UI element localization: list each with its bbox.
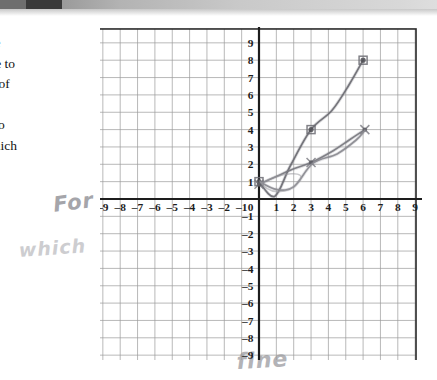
- svg-text:0: 0: [248, 201, 254, 213]
- svg-text:8: 8: [248, 54, 254, 66]
- svg-text:5: 5: [248, 106, 254, 118]
- body-paragraph: the ure to es of e d to which: [0, 33, 76, 156]
- svg-text:–9: –9: [241, 349, 254, 360]
- axis-labels: xy: [263, 27, 422, 213]
- svg-text:–7: –7: [131, 201, 144, 213]
- svg-text:–4: –4: [183, 201, 196, 213]
- graph-canvas: –9–8–7–6–5–4–3–2–1123456789987654321–1–2…: [100, 27, 422, 360]
- svg-text:3: 3: [308, 201, 314, 213]
- scan-artifact-fade: [0, 9, 437, 16]
- svg-text:–2: –2: [241, 228, 254, 240]
- svg-text:7: 7: [248, 72, 254, 84]
- svg-text:5: 5: [343, 201, 349, 213]
- svg-text:7: 7: [378, 201, 384, 213]
- svg-text:–2: –2: [218, 201, 231, 213]
- handwritten-note-for: For: [52, 188, 95, 217]
- svg-text:–3: –3: [200, 201, 213, 213]
- svg-text:–8: –8: [241, 332, 254, 344]
- svg-text:–9: –9: [100, 201, 109, 213]
- svg-text:1: 1: [248, 176, 254, 188]
- svg-text:–5: –5: [241, 280, 254, 292]
- svg-text:3: 3: [248, 141, 254, 153]
- svg-text:6: 6: [248, 89, 254, 101]
- svg-text:8: 8: [395, 201, 401, 213]
- svg-text:4: 4: [248, 124, 254, 136]
- svg-text:9: 9: [412, 201, 418, 213]
- svg-text:–6: –6: [241, 297, 254, 309]
- svg-text:–5: –5: [166, 201, 179, 213]
- svg-text:2: 2: [248, 158, 254, 170]
- svg-text:4: 4: [326, 201, 332, 213]
- svg-text:6: 6: [360, 201, 366, 213]
- svg-text:1: 1: [273, 201, 279, 213]
- svg-text:–3: –3: [241, 245, 254, 257]
- svg-text:–7: –7: [241, 315, 254, 327]
- handwritten-note-which: which: [18, 234, 87, 261]
- series-curve-shallow: [255, 125, 370, 189]
- svg-text:–4: –4: [241, 263, 254, 275]
- axes: [100, 27, 422, 360]
- coordinate-graph: –9–8–7–6–5–4–3–2–1123456789987654321–1–2…: [100, 27, 422, 360]
- scan-artifact-strip: [0, 0, 437, 9]
- svg-text:–8: –8: [114, 201, 127, 213]
- svg-text:2: 2: [291, 201, 297, 213]
- svg-text:–6: –6: [148, 201, 161, 213]
- svg-text:9: 9: [248, 37, 254, 49]
